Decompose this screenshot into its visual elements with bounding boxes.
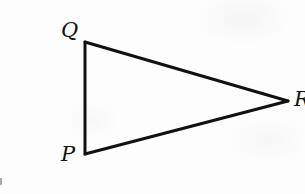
vertex-label-r: R — [294, 89, 305, 110]
edge-qr — [85, 42, 288, 101]
vertex-label-q: Q — [61, 20, 78, 41]
scan-artifact-speck — [0, 178, 2, 185]
vertex-label-p: P — [61, 144, 75, 165]
edge-pr — [85, 101, 288, 154]
triangle-shape-layer — [0, 0, 305, 194]
figure-canvas: Q P R — [0, 0, 305, 194]
